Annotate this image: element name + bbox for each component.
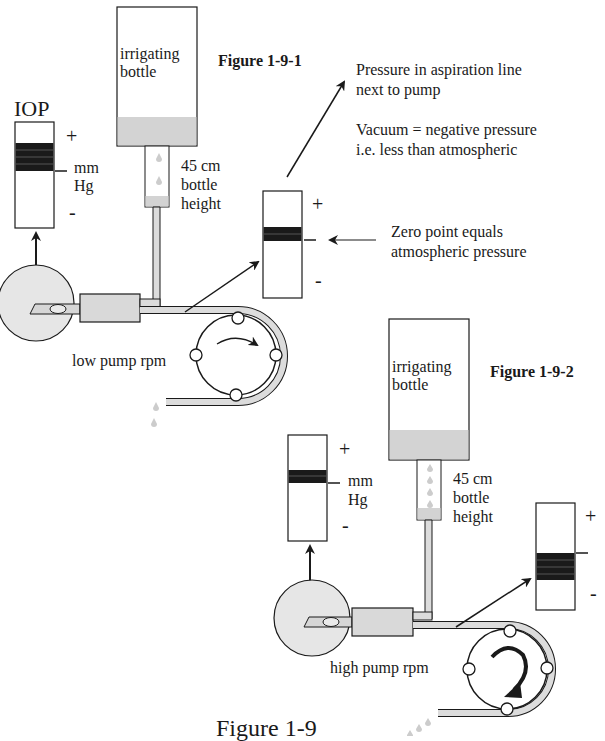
asp-minus-1: - [315,270,322,291]
iop-plus-1: + [66,126,77,147]
figure-1-9-2 [274,319,588,736]
droplet-icon [407,730,413,736]
arrow-tube-to-gauge-2 [456,579,530,627]
annotation-zero-a: Zero point equals [391,224,503,241]
annotation-zero-b: atmospheric pressure [391,244,527,261]
droplet-icon [153,402,159,411]
iop-gauge-2 [288,435,340,541]
annotation-vacuum-a: Vacuum = negative pressure [356,122,537,139]
arrow-gauge-to-annotation [287,82,344,177]
figure-1-9-1 [0,7,376,427]
pump-label-2: high pump rpm [330,660,429,677]
bottle-height-1c: height [181,196,221,213]
bottle-height-2c: height [453,509,493,526]
annotation-pressure-b: next to pump [356,82,440,99]
bottle-height-1b: bottle [181,177,217,194]
aspiration-gauge-1 [263,191,316,298]
aspiration-gauge-2 [536,503,588,610]
annotation-pressure-a: Pressure in aspiration line [356,62,522,79]
asp-plus-2: + [585,506,596,527]
infusion-tube-1 [153,207,160,307]
iop-units-1b: Hg [74,178,94,195]
bottle-height-2a: 45 cm [453,471,493,488]
eye-1 [0,265,74,341]
asp-plus-1: + [312,194,323,215]
droplet-icon [425,718,431,726]
iop-gauge-1 [15,122,67,228]
iop-label: IOP [14,97,49,120]
figure-title-2: Figure 1-9-2 [490,364,574,381]
bottle-height-1a: 45 cm [181,158,221,175]
droplet-icon [416,724,422,732]
iop-units-2b: Hg [348,492,368,509]
iop-units-1a: mm [74,160,99,177]
iop-minus-2: - [342,515,349,536]
iop-units-2a: mm [348,473,373,490]
droplet-icon [151,418,157,427]
bottle-label-2b: bottle [392,377,428,394]
iop-plus-2: + [339,439,350,460]
annotation-vacuum-b: i.e. less than atmospheric [356,142,517,159]
bottle-height-2b: bottle [453,490,489,507]
pump-label-1: low pump rpm [72,353,166,370]
arrow-tube-to-gauge-1 [185,262,258,312]
asp-minus-2: - [590,583,597,604]
figure-title-1: Figure 1-9-1 [218,53,302,70]
iop-minus-1: - [69,202,76,223]
bottle-label-1a: irrigating [120,46,180,63]
figure-caption: Figure 1-9 [216,716,317,741]
infusion-tube-2 [425,520,432,619]
bottle-label-2a: irrigating [392,359,452,376]
bottle-label-1b: bottle [120,64,156,81]
